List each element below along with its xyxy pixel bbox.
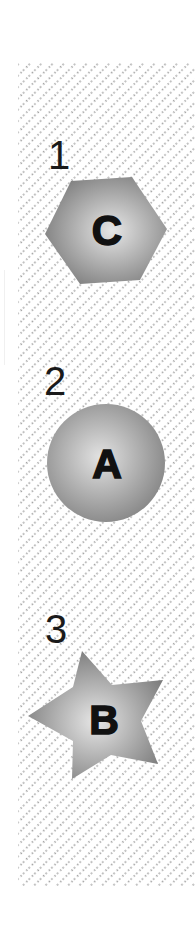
shapes-layer: C A B 1 2 3 bbox=[0, 0, 195, 937]
shape-letter-b: B bbox=[89, 697, 119, 743]
item-number-2: 2 bbox=[44, 359, 66, 403]
item-number-1: 1 bbox=[48, 133, 70, 177]
item-number-3: 3 bbox=[45, 607, 67, 651]
shape-letter-a: A bbox=[92, 441, 122, 487]
shape-letter-c: C bbox=[92, 207, 122, 254]
